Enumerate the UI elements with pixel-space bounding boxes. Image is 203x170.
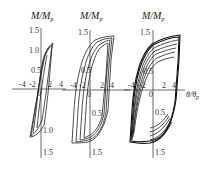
y-tick-label: 0.5 [31, 66, 41, 75]
y-tick-label: 1.5 [29, 26, 39, 35]
x-tick-label: 0 [149, 90, 153, 99]
x-tick-label: 4 [110, 81, 114, 90]
x-tick-label: 4 [172, 81, 176, 90]
y-tick-label: 0.5 [155, 108, 165, 117]
y-tick-label: 1.5 [78, 28, 88, 37]
hysteresis-figure: M/Mp 1.5 1.0 0.5 1.0 1.5 -4 -2 0 2 4 M/M… [0, 0, 203, 170]
y-tick-label: 0.5 [92, 109, 102, 118]
y-tick-label: 1.5 [92, 148, 102, 157]
y-tick-label: 1.5 [155, 148, 165, 157]
panel-3: M/Mp 1.5 0.5 0.5 1.5 -4 -2 0 2 4 θ/θp [124, 10, 199, 158]
x-tick-label: -4 [128, 81, 135, 90]
figure-caption-faint [10, 160, 193, 166]
panel-1: M/Mp 1.5 1.0 0.5 1.0 1.5 -4 -2 0 2 4 [12, 10, 66, 158]
x-tick-label: 2 [162, 81, 166, 90]
panel-3-title: M/Mp [141, 10, 164, 22]
x-tick-label: -4 [70, 81, 77, 90]
x-tick-label: -2 [29, 80, 36, 89]
y-tick-label: 1.0 [29, 46, 39, 55]
panel-1-loops [30, 43, 53, 137]
panel-1-title: M/Mp [30, 10, 53, 22]
y-tick-label: 1.0 [43, 126, 53, 135]
x-tick-label: -4 [19, 80, 26, 89]
x-axis-label: θ/θp [186, 90, 199, 100]
y-tick-label: 1.5 [43, 148, 53, 157]
x-tick-label: 2 [100, 81, 104, 90]
panel-2: M/Mp 1.5 0.5 0.5 1.5 -4 -2 0 2 4 [62, 10, 130, 158]
x-tick-label: 4 [59, 80, 63, 89]
panel-2-title: M/Mp [79, 10, 102, 22]
y-tick-label: 1.5 [140, 28, 150, 37]
